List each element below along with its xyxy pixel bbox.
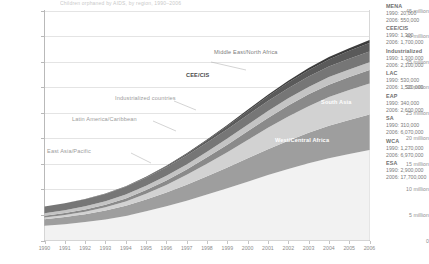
- legend-value-2006: 2006: 1,700,000: [386, 39, 429, 46]
- legend-group: Industrialized1990: 1,300,0002006: 2,100…: [386, 48, 429, 68]
- legend-value-1990: 1990: 1,300,000: [386, 55, 429, 62]
- legend-value-1990: 1990: 20,000: [386, 10, 429, 17]
- legend-group: WCA1990: 1,270,0002006: 6,970,000: [386, 138, 429, 158]
- legend-value-1990: 1990: 530,000: [386, 77, 429, 84]
- legend-region-name: MENA: [386, 3, 429, 10]
- legend-value-2006: 2006: 6,070,000: [386, 129, 429, 136]
- legend-value-1990: 1990: 1,270,000: [386, 145, 429, 152]
- series-label: Middle East/North Africa: [214, 49, 278, 55]
- legend-value-1990: 1990: 340,000: [386, 100, 429, 107]
- legend-value-2006: 2006: 6,970,000: [386, 152, 429, 159]
- series-label: West/Central Africa: [275, 137, 329, 143]
- legend-region-name: EAP: [386, 93, 429, 100]
- annotation-leader-line: [131, 153, 151, 163]
- legend-value-1990: 1990: 310,000: [386, 122, 429, 129]
- annotation-leader-line: [211, 62, 246, 70]
- legend-value-2006: 2006: 550,000: [386, 17, 429, 24]
- series-label: Latin America/Caribbean: [72, 116, 137, 122]
- annotation-leader-line: [153, 121, 176, 131]
- legend-region-name: ESA: [386, 160, 429, 167]
- legend-value-2006: 2006: 2,100,000: [386, 62, 429, 69]
- chart-page: Children orphaned by AIDS, by region, 19…: [0, 0, 429, 264]
- annotation-leader-line: [174, 101, 196, 110]
- series-label: Industrialized countries: [115, 95, 176, 101]
- legend-region-name: LAC: [386, 70, 429, 77]
- legend-value-1990: 1990: 1,300: [386, 32, 429, 39]
- series-label: Eastern/Southern Africa: [281, 176, 344, 182]
- legend-value-2006: 2006: 2,600,000: [386, 107, 429, 114]
- legend-panel: MENA1990: 20,0002006: 550,000CEE/CIS1990…: [386, 3, 429, 261]
- legend-value-1990: 1990: 2,900,000: [386, 167, 429, 174]
- legend-group: LAC1990: 530,0002006: 1,520,000: [386, 70, 429, 90]
- legend-group: ESA1990: 2,900,0002006: 17,700,000: [386, 160, 429, 180]
- series-label: East Asia/Pacific: [47, 148, 91, 154]
- legend-value-2006: 2006: 17,700,000: [386, 174, 429, 181]
- series-label: South Asia: [321, 99, 352, 105]
- legend-group: EAP1990: 340,0002006: 2,600,000: [386, 93, 429, 113]
- series-label: CEE/CIS: [186, 72, 209, 78]
- legend-region-name: Industrialized: [386, 48, 429, 55]
- legend-region-name: WCA: [386, 138, 429, 145]
- legend-group: MENA1990: 20,0002006: 550,000: [386, 3, 429, 23]
- legend-region-name: CEE/CIS: [386, 25, 429, 32]
- legend-value-2006: 2006: 1,520,000: [386, 84, 429, 91]
- legend-group: CEE/CIS1990: 1,3002006: 1,700,000: [386, 25, 429, 45]
- legend-group: SA1990: 310,0002006: 6,070,000: [386, 115, 429, 135]
- stacked-area-plot: [0, 0, 429, 264]
- legend-region-name: SA: [386, 115, 429, 122]
